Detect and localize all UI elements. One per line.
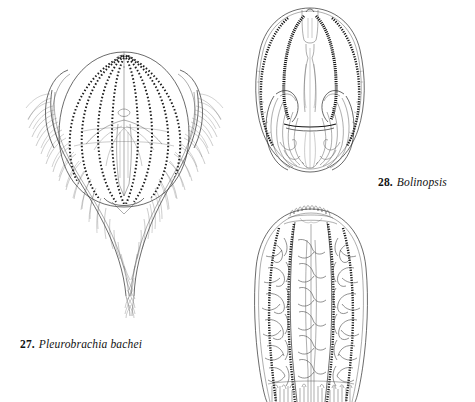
caption-27-taxon-name: Pleurobrachia bachei <box>35 338 142 350</box>
caption-27-number: 27. <box>20 338 35 350</box>
figure-unlabeled-lobate-ctenophore <box>238 200 384 402</box>
caption-28-number: 28. <box>378 176 393 188</box>
caption-28-taxon-name: Bolinopsis <box>393 176 447 188</box>
caption-figure-27: 27.Pleurobrachia bachei <box>20 338 142 350</box>
illustration-plate: 27.Pleurobrachia bachei 28.Bolinopsis <box>0 0 475 402</box>
figure-27-pleurobrachia-bachei <box>8 28 240 328</box>
caption-figure-28: 28.Bolinopsis <box>378 176 447 188</box>
figure-28-bolinopsis <box>240 2 380 180</box>
